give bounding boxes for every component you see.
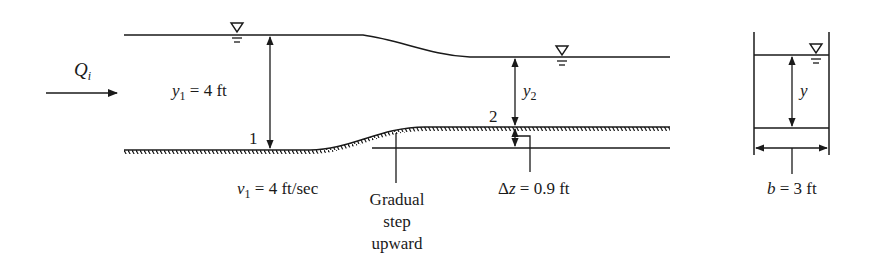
water-surface-symbol-section: [810, 44, 822, 63]
water-surface-symbol-upstream: [231, 23, 243, 42]
water-surface-line: [124, 35, 670, 57]
cross-section-width-label: b = 3 ft: [767, 180, 817, 197]
depth-y1-label: y1 = 4 ft: [172, 82, 227, 99]
section-2-label: 2: [489, 108, 498, 125]
channel-diagram: [0, 0, 876, 273]
inflow-label: Qi: [74, 60, 91, 79]
water-surface-symbol-downstream: [556, 46, 568, 65]
cross-section-depth-label: y: [800, 82, 808, 99]
delta-z-leader: [515, 136, 530, 172]
gradual-step-callout: Gradual step upward: [366, 189, 428, 255]
delta-z-label: Δz = 0.9 ft: [498, 180, 570, 197]
depth-y2-label: y2: [523, 82, 537, 99]
section-1-label: 1: [249, 130, 258, 147]
cross-section: [754, 32, 829, 174]
velocity-v1-label: v1 = 4 ft/sec: [237, 180, 318, 197]
